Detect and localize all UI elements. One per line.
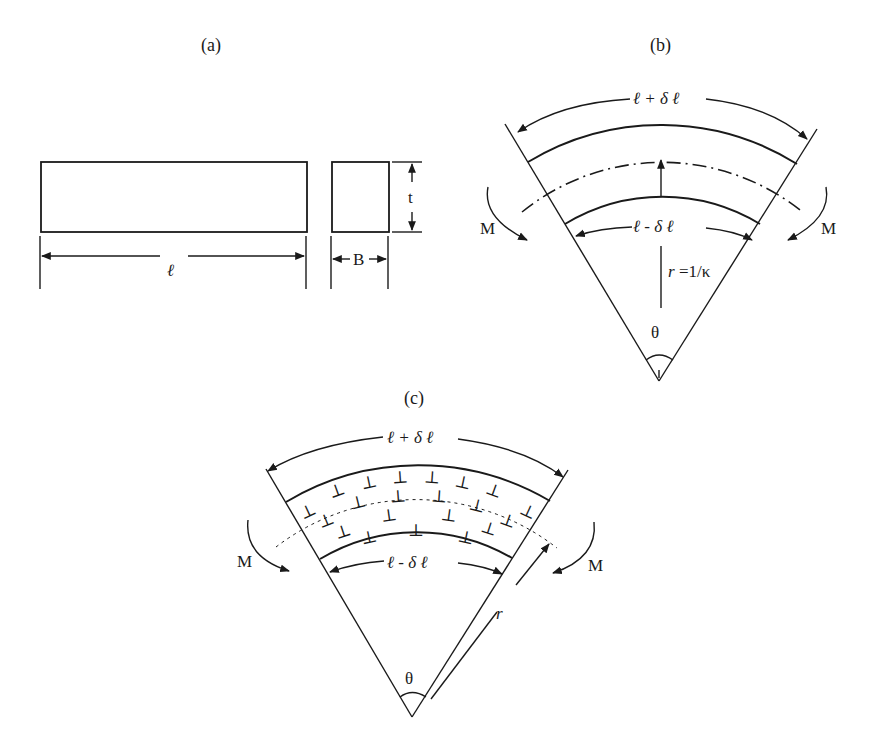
angle-label-b: θ: [651, 324, 659, 341]
dislocation-icon: ⊥: [389, 487, 406, 505]
radius-label-b: r =1/κ: [668, 263, 710, 280]
width-label: B: [353, 251, 364, 268]
inner-length-label-c: ℓ - δ ℓ: [387, 554, 427, 571]
moment-left-c: M: [237, 553, 252, 570]
dislocation-icon: ⊥: [408, 522, 424, 539]
moment-right-c: M: [588, 557, 603, 574]
panel-c-drawing: [248, 437, 595, 717]
figure-drawing: [0, 0, 871, 751]
radius-label-c: r: [496, 605, 503, 622]
dislocation-icon: ⊥: [440, 506, 458, 525]
dislocation-icon: ⊥: [430, 487, 447, 505]
panel-label-a: (a): [201, 36, 221, 54]
outer-length-label-b: ℓ + δ ℓ: [633, 90, 679, 107]
moment-right-b: M: [821, 220, 836, 237]
panel-label-c: (c): [404, 389, 424, 407]
panel-label-b: (b): [650, 36, 671, 54]
beam-side-rect: [41, 162, 307, 232]
dislocation-icon: ⊥: [359, 473, 378, 493]
dislocation-icon: ⊥: [423, 468, 440, 486]
panel-a-drawing: [40, 162, 422, 289]
dislocation-icon: ⊥: [380, 506, 398, 525]
bending-figure: (a) (b) (c) ℓ B t ℓ + δ ℓ ℓ - δ ℓ r =1/κ…: [0, 0, 871, 751]
moment-left-b: M: [480, 220, 495, 237]
outer-length-label-c: ℓ + δ ℓ: [387, 429, 433, 446]
inner-length-label-b: ℓ - δ ℓ: [633, 218, 673, 235]
beam-cross-section-rect: [332, 162, 389, 232]
dislocation-icon: ⊥: [391, 468, 408, 486]
dislocation-icon: ⊥: [359, 528, 378, 548]
length-label: ℓ: [167, 262, 174, 279]
thickness-label: t: [408, 189, 413, 206]
angle-label-c: θ: [405, 670, 413, 687]
